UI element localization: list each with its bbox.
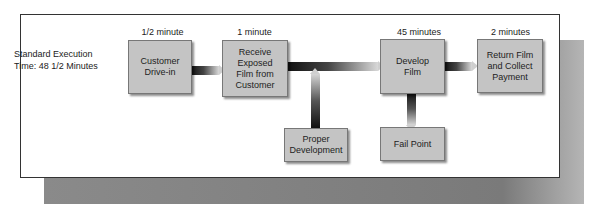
step-receive-film: Receive Exposed Film from Customer	[222, 40, 288, 97]
arrow-develop-to-return	[444, 62, 472, 71]
execution-time-summary: Standard Execution Time: 48 1/2 Minutes	[14, 48, 98, 72]
time-label-return-film: 2 minutes	[478, 27, 543, 38]
summary-line-2: Time: 48 1/2 Minutes	[14, 60, 98, 72]
step-label: Customer Drive-in	[136, 56, 184, 78]
step-label: Develop Film	[391, 56, 435, 78]
step-label: Receive Exposed Film from Customer	[230, 47, 280, 91]
step-return-film: Return Film and Collect Payment	[477, 39, 543, 93]
time-label-develop-film: 45 minutes	[384, 27, 454, 38]
arrow-proper-development-up	[311, 74, 320, 128]
arrow-receive-to-develop	[287, 62, 378, 71]
step-customer-drive-in: Customer Drive-in	[128, 40, 192, 94]
arrow-drive-in-to-receive	[191, 66, 219, 75]
time-label-customer-drive-in: 1/2 minute	[130, 27, 195, 38]
step-label: Return Film and Collect Payment	[481, 50, 539, 83]
node-fail-point: Fail Point	[380, 127, 445, 161]
node-proper-development: Proper Development	[284, 128, 348, 162]
node-label: Fail Point	[394, 139, 432, 150]
arrow-to-fail-point	[407, 93, 416, 125]
time-label-receive-film: 1 minute	[222, 27, 287, 38]
summary-line-1: Standard Execution	[14, 48, 98, 60]
node-label: Proper Development	[286, 134, 346, 156]
step-develop-film: Develop Film	[380, 39, 445, 94]
